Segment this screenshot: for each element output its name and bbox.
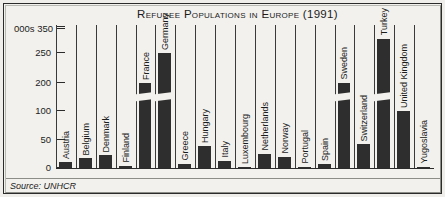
- axis-break-slash: [333, 92, 357, 102]
- category-label: Austria: [61, 131, 70, 159]
- source-note: Source: UNHCR: [10, 181, 76, 191]
- category-label: Finland: [121, 133, 130, 163]
- y-tick-label-350: 000s 350: [14, 23, 53, 34]
- category-label: Germany: [161, 13, 170, 50]
- bar-separator: [76, 25, 77, 168]
- bar[interactable]: [198, 146, 211, 168]
- bar-separator: [116, 25, 117, 168]
- y-tick-label-50: 50: [40, 134, 51, 145]
- category-label: Greece: [181, 131, 190, 161]
- category-label: Italy: [221, 141, 230, 158]
- bar[interactable]: [238, 167, 251, 168]
- bar-group: Belgium: [76, 25, 96, 168]
- category-label: Switzerland: [360, 95, 369, 142]
- bar-group: United Kingdom: [394, 25, 414, 168]
- bar-group: Greece: [175, 25, 195, 168]
- category-label: Yugoslavia: [420, 120, 429, 164]
- bar[interactable]: [59, 162, 72, 168]
- category-label: Luxembourg: [240, 114, 249, 164]
- category-label: Belgium: [81, 123, 90, 156]
- bar[interactable]: [318, 164, 331, 168]
- category-label: France: [141, 52, 150, 80]
- plot-area: 050100200250000s 350 AustriaBelgiumDenma…: [56, 26, 434, 168]
- bar[interactable]: [417, 167, 430, 168]
- y-tick-label-200: 200: [35, 77, 51, 88]
- bar-separator: [275, 25, 276, 168]
- bar-separator: [394, 25, 395, 168]
- bar-group: Germany: [155, 25, 175, 168]
- bar[interactable]: [298, 167, 311, 168]
- bar-separator: [414, 25, 415, 168]
- bar[interactable]: [178, 164, 191, 168]
- bar[interactable]: [258, 154, 271, 168]
- bar-separator: [175, 25, 176, 168]
- bar-group: Portugal: [295, 25, 315, 168]
- bar-group: Yugoslavia: [414, 25, 434, 168]
- x-axis-line: [56, 168, 434, 169]
- bar-separator: [215, 25, 216, 168]
- bar-group: Netherlands: [255, 25, 275, 168]
- y-tick-label-250: 250: [35, 47, 51, 58]
- category-label: Netherlands: [260, 102, 269, 151]
- bar-separator: [315, 25, 316, 168]
- source-divider: [6, 178, 440, 179]
- bar-group: Finland: [116, 25, 136, 168]
- bar[interactable]: [158, 53, 171, 168]
- bar[interactable]: [218, 161, 231, 168]
- category-label: United Kingdom: [400, 44, 409, 108]
- chart-title: Refugee Populations in Europe (1991): [0, 8, 435, 20]
- bar-separator: [96, 25, 97, 168]
- bar[interactable]: [79, 158, 92, 168]
- bar[interactable]: [119, 166, 132, 168]
- category-label: Turkey: [380, 8, 389, 35]
- bar-group: Hungary: [195, 25, 215, 168]
- bar[interactable]: [99, 155, 112, 168]
- bar[interactable]: [377, 39, 390, 168]
- category-label: Portugal: [300, 130, 309, 164]
- bar-group: Denmark: [96, 25, 116, 168]
- bar-group: Norway: [275, 25, 295, 168]
- bar-separator: [354, 25, 355, 168]
- bar-group: Luxembourg: [235, 25, 255, 168]
- bar[interactable]: [357, 144, 370, 168]
- bar-separator: [235, 25, 236, 168]
- bar-group: Italy: [215, 25, 235, 168]
- chart-figure: Refugee Populations in Europe (1991) 050…: [0, 0, 445, 197]
- bar-separator: [56, 25, 57, 168]
- bar-separator: [295, 25, 296, 168]
- category-label: Norway: [280, 123, 289, 154]
- bar-group: Spain: [315, 25, 335, 168]
- bar-group: Turkey: [374, 25, 394, 168]
- bar[interactable]: [397, 111, 410, 168]
- bar-separator: [195, 25, 196, 168]
- y-tick-label-100: 100: [35, 105, 51, 116]
- bar[interactable]: [278, 157, 291, 168]
- bar-group: Sweden: [335, 25, 355, 168]
- category-label: Sweden: [340, 47, 349, 80]
- bar-separator: [255, 25, 256, 168]
- category-label: Hungary: [201, 109, 210, 143]
- y-tick-label-0: 0: [46, 162, 51, 173]
- category-label: Spain: [320, 138, 329, 161]
- bar-group: Austria: [56, 25, 76, 168]
- category-label: Denmark: [101, 116, 110, 153]
